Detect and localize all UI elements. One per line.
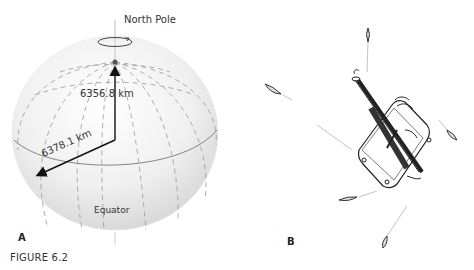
polar-radius-label: 6356.8 km bbox=[80, 88, 134, 99]
panel-a-earth-oblate-spheroid: North Pole 6356.8 km 6378.1 km Equator A bbox=[0, 0, 237, 250]
panel-b-letter: B bbox=[287, 236, 295, 247]
panel-a-letter: A bbox=[18, 232, 26, 243]
figure-caption: FIGURE 6.2 bbox=[10, 252, 68, 263]
north-pole-label: North Pole bbox=[124, 14, 176, 25]
gyroscope-sketch bbox=[237, 0, 474, 250]
panel-b-spinning-top-illustration: B bbox=[237, 0, 474, 250]
equator-label: Equator bbox=[94, 205, 129, 215]
